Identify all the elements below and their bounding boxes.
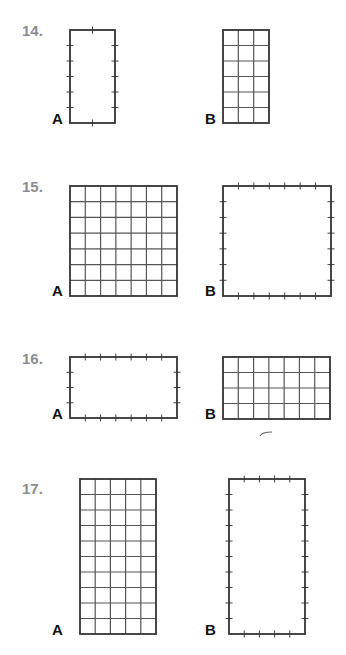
grid-rectangle — [80, 479, 156, 634]
figures-canvas — [0, 0, 346, 655]
grid-rectangle — [223, 30, 269, 123]
tick-rectangle — [67, 27, 119, 127]
tick-rectangle — [220, 183, 335, 300]
tick-rectangle — [226, 476, 309, 638]
grid-rectangle — [70, 186, 177, 296]
tick-rectangle — [67, 354, 181, 422]
grid-rectangle — [223, 357, 330, 419]
stray-pencil-mark — [260, 432, 272, 436]
